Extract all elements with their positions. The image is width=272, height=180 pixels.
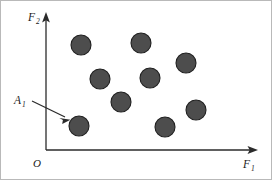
y-axis-label-subscript: 2 (36, 17, 40, 26)
data-point[interactable] (176, 53, 196, 73)
data-point[interactable] (90, 69, 110, 89)
scatter-plot-svg: F 2 F 1 O A 1 (0, 0, 272, 180)
annotation-arrowhead-icon (59, 118, 70, 124)
origin-label: O (33, 157, 41, 169)
y-axis-label: F (27, 11, 36, 23)
data-point[interactable] (131, 33, 151, 53)
data-point[interactable] (71, 35, 91, 55)
data-point-a1[interactable] (69, 116, 89, 136)
figure-border (1, 1, 272, 180)
annotation-label-subscript: 1 (22, 100, 26, 109)
data-point[interactable] (140, 68, 160, 88)
data-point[interactable] (111, 92, 131, 112)
data-point[interactable] (155, 117, 175, 137)
annotation-leader-line (32, 101, 65, 117)
x-axis-label: F (242, 158, 251, 170)
figure-root: F 2 F 1 O A 1 (0, 0, 272, 180)
data-point-group (69, 33, 206, 137)
annotation-label: A (13, 94, 22, 106)
x-axis-label-subscript: 1 (251, 164, 255, 173)
data-point[interactable] (186, 100, 206, 120)
